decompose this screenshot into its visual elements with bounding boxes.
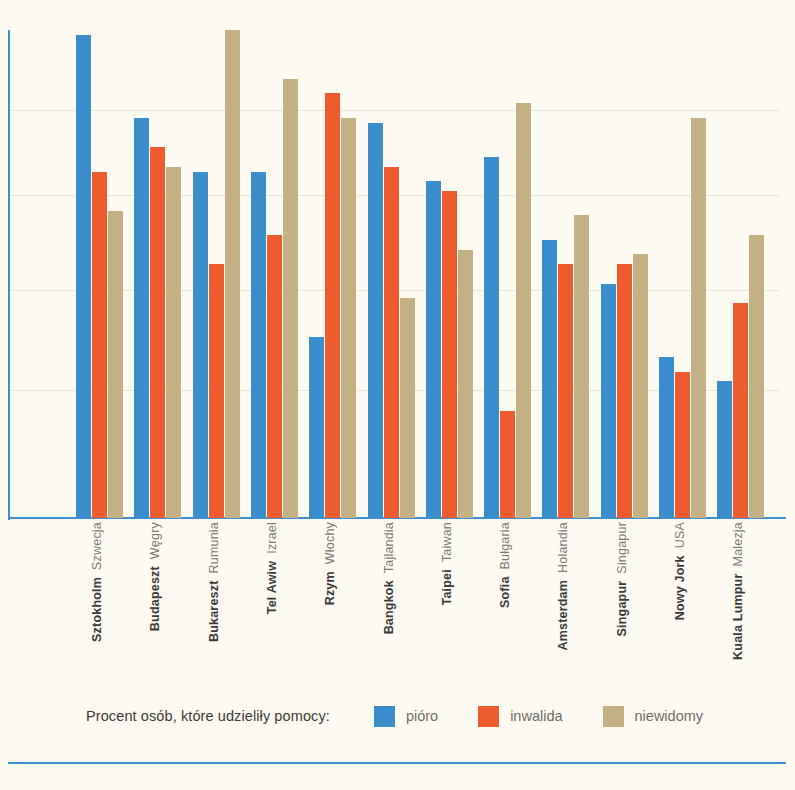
bar-inwalida <box>384 167 399 518</box>
bar-pioro <box>134 118 149 518</box>
bar-group-bars <box>659 30 711 518</box>
bar-group <box>601 30 653 518</box>
bar-group-bars <box>601 30 653 518</box>
bar-niewidomy <box>283 79 298 518</box>
bar-inwalida <box>92 172 107 518</box>
legend-swatch-pioro <box>374 706 395 727</box>
bar-group <box>76 30 128 518</box>
x-axis-labels: SzwecjaSztokholmWęgryBudapesztRumuniaBuk… <box>76 522 776 652</box>
bar-pioro <box>717 381 732 518</box>
bar-pioro <box>193 172 208 518</box>
x-label-country: Izrael <box>265 522 279 554</box>
x-label-city: Kuala Lumpur <box>731 573 745 659</box>
legend-item[interactable]: pióro <box>374 706 438 727</box>
bar-pioro <box>76 35 91 518</box>
legend-label: niewidomy <box>635 708 704 724</box>
bar-pioro <box>542 240 557 518</box>
legend-title: Procent osób, które udzieliły pomocy: <box>86 708 330 724</box>
bar-pioro <box>309 337 324 518</box>
bar-niewidomy <box>516 103 531 518</box>
bar-niewidomy <box>633 254 648 518</box>
x-label-city: Rzym <box>323 571 337 605</box>
bar-group <box>134 30 186 518</box>
x-label-city: Nowy Jork <box>673 555 687 620</box>
bar-niewidomy <box>341 118 356 518</box>
bar-niewidomy <box>574 215 589 518</box>
legend-label: pióro <box>406 708 438 724</box>
x-label-city: Bangkok <box>382 580 396 634</box>
bar-group-bars <box>193 30 245 518</box>
bar-group <box>484 30 536 518</box>
bar-niewidomy <box>166 167 181 518</box>
bar-niewidomy <box>749 235 764 518</box>
x-label-country: Węgry <box>148 522 162 559</box>
x-label-city: Budapeszt <box>148 566 162 631</box>
legend-item[interactable]: inwalida <box>478 706 562 727</box>
y-axis-line <box>8 30 10 520</box>
bottom-rule <box>8 762 786 764</box>
bar-inwalida <box>675 372 690 518</box>
x-label-country: Holandia <box>556 522 570 573</box>
bar-niewidomy <box>691 118 706 518</box>
bar-inwalida <box>733 303 748 518</box>
x-label-city: Sofia <box>498 576 512 608</box>
bar-group <box>659 30 711 518</box>
x-label-country: Włochy <box>323 522 337 564</box>
bar-inwalida <box>267 235 282 518</box>
bar-niewidomy <box>400 298 415 518</box>
bar-pioro <box>368 123 383 518</box>
x-label-country: Singapur <box>615 522 629 574</box>
bar-pioro <box>601 284 616 518</box>
x-label-country: Rumunia <box>207 522 221 573</box>
bar-inwalida <box>442 191 457 518</box>
bar-inwalida <box>209 264 224 518</box>
bar-group-bars <box>251 30 303 518</box>
legend-swatch-inwalida <box>478 706 499 727</box>
bar-group-bars <box>134 30 186 518</box>
x-label-city: Amsterdam <box>556 580 570 651</box>
x-label-country: Taiwan <box>440 522 454 562</box>
bar-group <box>193 30 245 518</box>
bar-group <box>251 30 303 518</box>
x-axis-label: MalezjaKuala Lumpur <box>731 522 795 642</box>
x-label-country: USA <box>673 522 687 548</box>
bar-inwalida <box>558 264 573 518</box>
bar-group <box>542 30 594 518</box>
bar-niewidomy <box>458 250 473 518</box>
bar-pioro <box>484 157 499 518</box>
bar-chart-plot-area <box>76 30 776 518</box>
x-label-country: Bułgaria <box>498 522 512 569</box>
bar-niewidomy <box>108 211 123 518</box>
bar-inwalida <box>325 93 340 518</box>
bar-group-bars <box>542 30 594 518</box>
bar-group <box>368 30 420 518</box>
legend-item[interactable]: niewidomy <box>603 706 704 727</box>
bar-pioro <box>659 357 674 518</box>
bar-niewidomy <box>225 30 240 518</box>
x-label-city: Taipei <box>440 569 454 605</box>
bar-group <box>309 30 361 518</box>
bar-group-bars <box>368 30 420 518</box>
legend-items: pióroinwalidaniewidomy <box>374 706 743 727</box>
x-label-country: Szwecja <box>90 522 104 570</box>
bar-group-bars <box>717 30 769 518</box>
bar-pioro <box>426 181 441 518</box>
bar-pioro <box>251 172 266 518</box>
x-label-city: Bukareszt <box>207 580 221 642</box>
legend-label: inwalida <box>510 708 562 724</box>
x-label-city: Tel Awiw <box>265 561 279 614</box>
bar-group-bars <box>76 30 128 518</box>
bar-group-bars <box>426 30 478 518</box>
x-label-country: Tajlandia <box>382 522 396 573</box>
bar-inwalida <box>150 147 165 518</box>
bar-inwalida <box>617 264 632 518</box>
x-label-country: Malezja <box>731 522 745 566</box>
bar-group-bars <box>484 30 536 518</box>
bar-group <box>717 30 769 518</box>
x-label-city: Singapur <box>615 581 629 637</box>
chart-legend: Procent osób, które udzieliły pomocy: pi… <box>86 703 743 729</box>
bar-group <box>426 30 478 518</box>
chart-page: SzwecjaSztokholmWęgryBudapesztRumuniaBuk… <box>0 0 795 790</box>
x-label-city: Sztokholm <box>90 577 104 642</box>
bar-group-bars <box>309 30 361 518</box>
